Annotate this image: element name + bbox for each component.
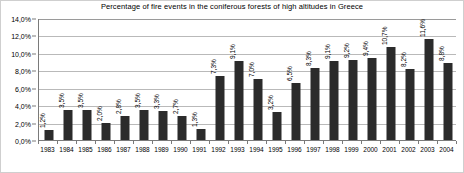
bar[interactable]: [215, 76, 224, 140]
y-tick-label: 14,0%: [11, 16, 31, 23]
bar-group[interactable]: 9,4%: [362, 19, 381, 140]
x-tick-label: 1989: [154, 146, 168, 153]
bar-group[interactable]: 9,1%: [229, 19, 248, 140]
y-tick-mark: [32, 123, 36, 124]
bar-value-label: 1,2%: [38, 113, 45, 128]
bar-group[interactable]: 3,3%: [153, 19, 172, 140]
bar-group[interactable]: 8,8%: [438, 19, 457, 140]
bar-group[interactable]: 3,2%: [267, 19, 286, 140]
bar-group[interactable]: 2,0%: [96, 19, 115, 140]
x-tick-mark: [133, 141, 134, 144]
bar-group[interactable]: 1,3%: [191, 19, 210, 140]
bar-value-label: 8,3%: [304, 51, 311, 66]
x-tick-mark: [304, 141, 305, 144]
x-tick-label: 2004: [439, 146, 453, 153]
bar-group[interactable]: 8,2%: [400, 19, 419, 140]
y-tick-mark: [32, 88, 36, 89]
bar[interactable]: [44, 130, 53, 140]
y-tick-label: 6,0%: [15, 85, 31, 92]
x-tick-mark: [380, 141, 381, 144]
bar[interactable]: [158, 111, 167, 140]
bar[interactable]: [405, 69, 414, 140]
bar-value-label: 2,7%: [171, 100, 178, 115]
bar-group[interactable]: 7,3%: [210, 19, 229, 140]
x-tick-mark: [57, 141, 58, 144]
x-tick-label: 1999: [344, 146, 358, 153]
bar[interactable]: [291, 83, 300, 140]
bar-group[interactable]: 6,5%: [286, 19, 305, 140]
bar-group[interactable]: 3,5%: [58, 19, 77, 140]
x-tick-mark: [342, 141, 343, 144]
x-tick-label: 1988: [135, 146, 149, 153]
bar-value-label: 3,3%: [152, 94, 159, 109]
bar-value-label: 1,3%: [190, 112, 197, 127]
bar[interactable]: [367, 58, 376, 140]
bar-group[interactable]: 2,8%: [115, 19, 134, 140]
bar-group[interactable]: 9,1%: [324, 19, 343, 140]
bar-group[interactable]: 11,6%: [419, 19, 438, 140]
y-tick-mark: [32, 36, 36, 37]
bar-group[interactable]: 9,2%: [343, 19, 362, 140]
x-tick-mark: [76, 141, 77, 144]
x-tick-mark: [399, 141, 400, 144]
y-tick-mark: [32, 53, 36, 54]
y-tick-label: 0,0%: [15, 138, 31, 145]
bar-group[interactable]: 7,0%: [248, 19, 267, 140]
x-tick-label: 2002: [401, 146, 415, 153]
bar[interactable]: [101, 123, 110, 140]
y-tick-label: 2,0%: [15, 120, 31, 127]
bar-group[interactable]: 10,7%: [381, 19, 400, 140]
x-tick-label: 1986: [97, 146, 111, 153]
bar[interactable]: [82, 110, 91, 141]
bar[interactable]: [177, 116, 186, 140]
bar-value-label: 3,2%: [266, 95, 273, 110]
bar[interactable]: [120, 116, 129, 140]
x-tick-mark: [228, 141, 229, 144]
y-tick-label: 10,0%: [11, 50, 31, 57]
y-axis: 0,0%2,0%4,0%6,0%8,0%10,0%12,0%14,0%: [0, 19, 36, 141]
x-tick-label: 1991: [192, 146, 206, 153]
bar-value-label: 3,5%: [133, 93, 140, 108]
x-tick-label: 1992: [211, 146, 225, 153]
x-tick-label: 2003: [420, 146, 434, 153]
bar[interactable]: [234, 61, 243, 140]
x-tick-label: 1983: [40, 146, 54, 153]
bar-value-label: 11,6%: [418, 19, 425, 37]
bar-value-label: 9,2%: [342, 43, 349, 58]
x-tick-mark: [323, 141, 324, 144]
x-tick-label: 2001: [382, 146, 396, 153]
bar-group[interactable]: 2,7%: [172, 19, 191, 140]
bar-group[interactable]: 8,3%: [305, 19, 324, 140]
x-tick-mark: [361, 141, 362, 144]
bar-group[interactable]: 1,2%: [39, 19, 58, 140]
x-tick-label: 1996: [287, 146, 301, 153]
bar[interactable]: [139, 110, 148, 141]
bar[interactable]: [329, 61, 338, 140]
x-tick-label: 1990: [173, 146, 187, 153]
y-tick-mark: [32, 19, 36, 20]
x-tick-label: 1998: [325, 146, 339, 153]
bar-value-label: 3,5%: [57, 93, 64, 108]
bar[interactable]: [196, 129, 205, 140]
bar-group[interactable]: 3,5%: [134, 19, 153, 140]
y-tick-mark: [32, 71, 36, 72]
bar[interactable]: [386, 47, 395, 140]
x-tick-mark: [247, 141, 248, 144]
bar[interactable]: [272, 112, 281, 140]
bar-group[interactable]: 3,5%: [77, 19, 96, 140]
bar-value-label: 9,4%: [361, 41, 368, 56]
x-tick-mark: [190, 141, 191, 144]
x-tick-mark: [418, 141, 419, 144]
x-tick-mark: [209, 141, 210, 144]
bar[interactable]: [253, 79, 262, 140]
y-tick-label: 4,0%: [15, 103, 31, 110]
bar[interactable]: [310, 68, 319, 140]
bar[interactable]: [348, 60, 357, 140]
bar[interactable]: [63, 110, 72, 141]
x-tick-mark: [152, 141, 153, 144]
y-tick-label: 12,0%: [11, 33, 31, 40]
bar[interactable]: [443, 63, 452, 140]
bar-value-label: 2,0%: [95, 106, 102, 121]
chart-title: Percentage of fire events in the conifer…: [0, 2, 464, 11]
bar[interactable]: [424, 39, 433, 140]
